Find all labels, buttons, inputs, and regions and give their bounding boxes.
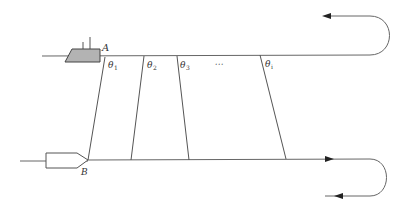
ellipsis: ⋯ bbox=[214, 59, 223, 69]
svg-text:i: i bbox=[271, 63, 273, 70]
angle-theta-1: θ 1 bbox=[108, 60, 118, 71]
arrow-right-icon bbox=[325, 156, 334, 162]
point-a-label: A bbox=[101, 42, 109, 53]
angle-theta-3: θ 3 bbox=[180, 60, 190, 71]
ship-torpedo-diagram: A B θ 1 θ 2 θ 3 ⋯ θ i bbox=[0, 0, 401, 214]
ship-icon bbox=[65, 37, 100, 62]
arrow-left-icon bbox=[322, 13, 331, 19]
angle-theta-i: θ i bbox=[265, 59, 273, 70]
svg-text:3: 3 bbox=[186, 64, 190, 71]
svg-text:2: 2 bbox=[153, 64, 157, 71]
svg-text:1: 1 bbox=[114, 64, 118, 71]
torpedo-icon bbox=[46, 153, 88, 168]
angle-theta-2: θ 2 bbox=[147, 60, 157, 71]
arrow-left-icon bbox=[334, 193, 343, 199]
point-b-label: B bbox=[80, 167, 88, 177]
